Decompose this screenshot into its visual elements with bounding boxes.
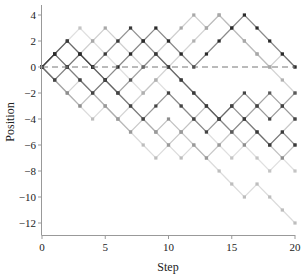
walk-point bbox=[180, 26, 183, 29]
walk-point bbox=[167, 39, 170, 42]
y-tick-label: −4 bbox=[24, 113, 36, 125]
walk-point bbox=[154, 104, 157, 107]
walk-point bbox=[230, 156, 233, 159]
walk-point bbox=[255, 130, 258, 133]
y-axis: 420−2−4−6−8−10−12 bbox=[19, 5, 42, 235]
walk-point bbox=[293, 143, 296, 146]
walk-point bbox=[78, 104, 81, 107]
y-tick-label: 0 bbox=[31, 61, 37, 73]
walk-point bbox=[281, 52, 284, 55]
walk-series-10 bbox=[40, 65, 296, 133]
x-axis: 05101520 bbox=[39, 235, 301, 253]
walk-point bbox=[180, 130, 183, 133]
walk-point bbox=[142, 143, 145, 146]
walk-point bbox=[91, 39, 94, 42]
walk-point bbox=[180, 78, 183, 81]
y-tick-label: 4 bbox=[31, 9, 37, 21]
walk-point bbox=[255, 52, 258, 55]
y-tick-label: −6 bbox=[24, 139, 36, 151]
walk-point bbox=[243, 13, 246, 16]
walk-point bbox=[218, 39, 221, 42]
y-tick-label: −10 bbox=[19, 191, 37, 203]
walk-point bbox=[268, 65, 271, 68]
walk-point bbox=[116, 117, 119, 120]
walk-point bbox=[192, 143, 195, 146]
walk-point bbox=[218, 143, 221, 146]
walk-point bbox=[255, 26, 258, 29]
walk-point bbox=[255, 182, 258, 185]
walk-point bbox=[116, 91, 119, 94]
walk-point bbox=[281, 208, 284, 211]
walk-point bbox=[281, 130, 284, 133]
walk-point bbox=[167, 143, 170, 146]
walk-point bbox=[66, 91, 69, 94]
walk-point bbox=[205, 26, 208, 29]
walk-point bbox=[142, 117, 145, 120]
x-tick-label: 0 bbox=[39, 241, 45, 253]
y-tick-label: −12 bbox=[19, 217, 36, 229]
walk-point bbox=[129, 78, 132, 81]
walk-point bbox=[243, 117, 246, 120]
walk-series-9 bbox=[40, 13, 296, 81]
x-tick-label: 10 bbox=[163, 241, 175, 253]
walk-point bbox=[293, 221, 296, 224]
walk-point bbox=[104, 78, 107, 81]
walk-point bbox=[281, 78, 284, 81]
walk-point bbox=[281, 156, 284, 159]
walk-point bbox=[129, 52, 132, 55]
walk-point bbox=[104, 52, 107, 55]
walk-point bbox=[53, 52, 56, 55]
walk-point bbox=[243, 143, 246, 146]
walk-point bbox=[230, 26, 233, 29]
walk-point bbox=[78, 26, 81, 29]
walk-point bbox=[78, 78, 81, 81]
walk-point bbox=[167, 117, 170, 120]
x-tick-label: 15 bbox=[226, 241, 238, 253]
walk-point bbox=[218, 169, 221, 172]
walk-point bbox=[293, 169, 296, 172]
walk-point bbox=[180, 104, 183, 107]
plot-series bbox=[40, 13, 296, 224]
walk-point bbox=[268, 195, 271, 198]
walk-point bbox=[78, 52, 81, 55]
walk-point bbox=[142, 39, 145, 42]
walk-point bbox=[243, 195, 246, 198]
walk-point bbox=[192, 39, 195, 42]
walk-point bbox=[192, 13, 195, 16]
walk-point bbox=[230, 104, 233, 107]
walk-point bbox=[293, 117, 296, 120]
walk-point bbox=[205, 52, 208, 55]
walk-point bbox=[243, 91, 246, 94]
walk-point bbox=[281, 104, 284, 107]
walk-point bbox=[205, 104, 208, 107]
walk-point bbox=[129, 130, 132, 133]
walk-point bbox=[255, 156, 258, 159]
walk-point bbox=[268, 143, 271, 146]
walk-point bbox=[154, 78, 157, 81]
walk-point bbox=[268, 169, 271, 172]
walk-point bbox=[218, 13, 221, 16]
walk-point bbox=[154, 130, 157, 133]
walk-point bbox=[154, 26, 157, 29]
walk-point bbox=[129, 104, 132, 107]
walk-point bbox=[230, 130, 233, 133]
walk-point bbox=[91, 91, 94, 94]
walk-point bbox=[268, 39, 271, 42]
walk-series-8 bbox=[40, 26, 296, 146]
walk-point bbox=[205, 156, 208, 159]
walk-point bbox=[180, 156, 183, 159]
walk-series-4 bbox=[40, 13, 296, 81]
y-tick-label: 2 bbox=[31, 35, 37, 47]
walk-point bbox=[192, 117, 195, 120]
walk-point bbox=[243, 39, 246, 42]
walk-line bbox=[42, 15, 295, 80]
walk-line bbox=[42, 15, 295, 80]
walk-point bbox=[91, 117, 94, 120]
walk-point bbox=[230, 182, 233, 185]
walk-point bbox=[192, 91, 195, 94]
walk-series-2 bbox=[40, 26, 296, 172]
walk-point bbox=[104, 104, 107, 107]
y-tick-label: −8 bbox=[24, 165, 36, 177]
y-tick-label: −2 bbox=[24, 87, 36, 99]
walk-point bbox=[180, 52, 183, 55]
